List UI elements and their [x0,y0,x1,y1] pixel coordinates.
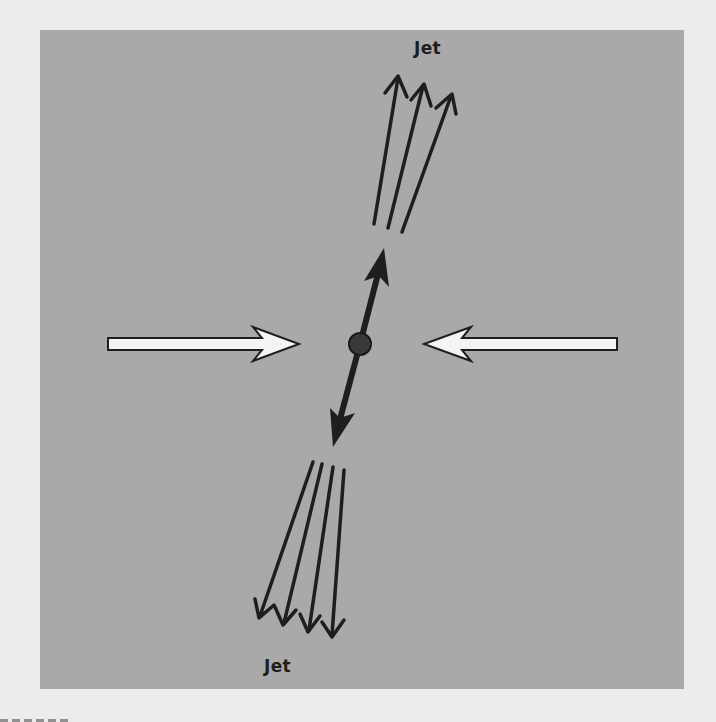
track-arrow-icon [322,470,344,637]
collision-point-icon [349,333,371,355]
bottom-jet-tracks [255,462,344,637]
top-jet-label: Jet [414,38,441,58]
right-beam-arrow-icon [424,327,617,361]
left-beam-arrow-icon [108,327,299,361]
top-jet-tracks [374,76,456,232]
track-arrow-icon [402,94,456,232]
bottom-jet-label: Jet [264,656,291,676]
up-product-arrow-icon [360,248,389,344]
down-product-arrow-icon [330,344,360,447]
cropped-caption [0,714,90,722]
track-arrow-icon [374,76,407,224]
jet-diagram [0,0,716,722]
